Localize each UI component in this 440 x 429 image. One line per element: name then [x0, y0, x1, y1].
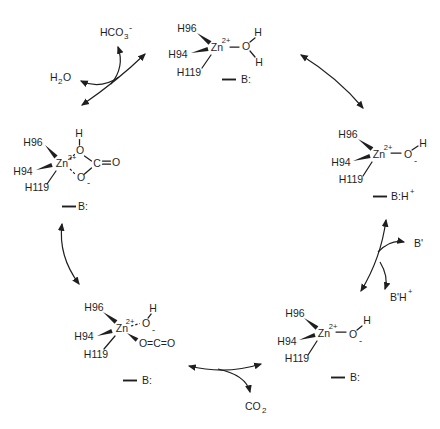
co2-subscript: 2	[262, 406, 267, 415]
hydrogen-upper-label: H	[254, 26, 262, 38]
complex-zn-hydroxide-free-base: H96 H94 H119 Zn 2+ O - H B:	[277, 307, 370, 383]
base-label: B:	[350, 371, 360, 383]
wedge-bond-h94	[353, 154, 371, 161]
co2-molecule-label: O=C=O	[139, 337, 175, 349]
ligand-label-h96: H96	[23, 136, 42, 148]
bond-h119	[202, 55, 211, 68]
base-label: B:	[142, 374, 152, 386]
ligand-label-h119: H119	[285, 352, 309, 364]
metal-charge: 2+	[126, 317, 135, 326]
hydrogen-label: H	[75, 127, 83, 139]
buffer-acid-label: B'H	[390, 291, 407, 303]
water-oxygen: O	[63, 71, 71, 83]
oxygen-top-label: O	[76, 144, 84, 156]
hydrogen-label: H	[363, 314, 371, 326]
ligand-label-h94: H94	[277, 335, 296, 347]
hydrogen-label: H	[419, 137, 427, 149]
wedge-bond-h94	[36, 163, 53, 170]
wedge-bond-h94	[97, 329, 113, 336]
co2-binding-arrow	[218, 369, 250, 392]
oxygen-double-label: O	[112, 156, 120, 168]
ligand-label-h96: H96	[84, 301, 103, 313]
bond-otop-c	[85, 156, 92, 161]
water-label: H	[50, 71, 58, 83]
wedge-bond-h96	[304, 318, 318, 330]
hydrogen-label: H	[149, 302, 157, 314]
bond-o-h-upper	[250, 38, 255, 42]
base-label: B:	[78, 200, 88, 212]
bond-h119	[308, 341, 317, 355]
metal-label: Zn	[56, 157, 68, 169]
oxygen-label: O	[142, 317, 150, 329]
wedge-bond-h94	[299, 333, 316, 340]
equilibrium-arrow-left	[61, 224, 79, 284]
base-label: B:H	[391, 190, 409, 202]
water-binding-arrow	[81, 77, 119, 85]
co2-label: CO	[245, 400, 261, 412]
ligand-label-h96: H96	[285, 307, 304, 319]
complex-zn-hydroxide-co2: H96 H94 H119 Zn 2+ O - H O=C=O B:	[74, 301, 175, 386]
ligand-label-h96: H96	[338, 128, 357, 140]
dashed-bond-zn-o-bottom	[70, 169, 76, 175]
wedge-bond-h94	[191, 47, 209, 53]
equilibrium-arrow-top-right	[301, 55, 363, 108]
metal-charge: 2+	[329, 322, 338, 331]
oxygen-bottom-label: O	[77, 171, 85, 183]
ligand-label-h96: H96	[177, 22, 196, 34]
bond-o-h	[412, 146, 418, 150]
complex-zn-water: H96 H94 H119 Zn 2+ O H H B:	[168, 22, 262, 85]
buffer-acid-charge: +	[408, 287, 413, 296]
bicarbonate-label: HCO	[100, 26, 123, 38]
ligand-label-h94: H94	[74, 330, 93, 342]
wedge-bond-h96	[358, 139, 373, 151]
ligand-label-h119: H119	[339, 173, 363, 185]
ligand-label-h119: H119	[177, 66, 201, 78]
equilibrium-arrow-bottom	[189, 364, 261, 370]
bond-h119	[363, 162, 372, 176]
wedge-bond-h96	[197, 33, 212, 45]
bicarbonate-charge: -	[129, 22, 132, 33]
metal-charge: 2+	[384, 143, 393, 152]
metal-charge: 2+	[222, 36, 231, 45]
complex-zn-hydroxide-protonated-base: H96 H94 H119 Zn 2+ O - H B:H +	[331, 128, 426, 202]
ligand-label-h119: H119	[25, 181, 49, 193]
hydroxide-minus: -	[152, 324, 155, 335]
ligand-label-h94: H94	[331, 156, 350, 168]
carbonic-anhydrase-cycle-svg: H96 H94 H119 Zn 2+ O H H B: H96 H94 H119…	[0, 0, 440, 429]
ligand-label-h94: H94	[168, 48, 187, 60]
reaction-cycle-figure: H96 H94 H119 Zn 2+ O H H B: H96 H94 H119…	[0, 0, 440, 429]
ligand-label-h94: H94	[13, 165, 32, 177]
buffer-acid-arrow	[380, 262, 386, 289]
hydrogen-lower-label: H	[255, 56, 263, 68]
equilibrium-arrow-right	[361, 220, 386, 291]
carbon-label: C	[93, 157, 101, 169]
bond-obottom-c	[85, 168, 92, 174]
base-label: B:	[241, 73, 251, 85]
ligand-label-h119: H119	[84, 348, 108, 360]
oxygen-label: O	[404, 148, 412, 160]
arrows	[61, 47, 404, 392]
buffer-base-label: B'	[414, 237, 423, 249]
bicarbonate-subscript: 3	[124, 32, 129, 41]
oxygen-label: O	[349, 328, 357, 340]
carboxylate-minus: -	[87, 177, 90, 188]
wedge-bond-zn-co2	[127, 333, 138, 342]
hydroxide-minus: -	[414, 155, 417, 166]
base-charge: +	[410, 187, 415, 196]
oxygen-label: O	[242, 40, 250, 52]
complex-zn-bicarbonate: H96 H94 H119 Zn 2+ O H C O O - B:	[13, 127, 120, 212]
equilibrium-arrow-top-left	[82, 54, 145, 105]
bond-o-h	[357, 326, 362, 330]
hydroxide-minus: -	[359, 335, 362, 346]
